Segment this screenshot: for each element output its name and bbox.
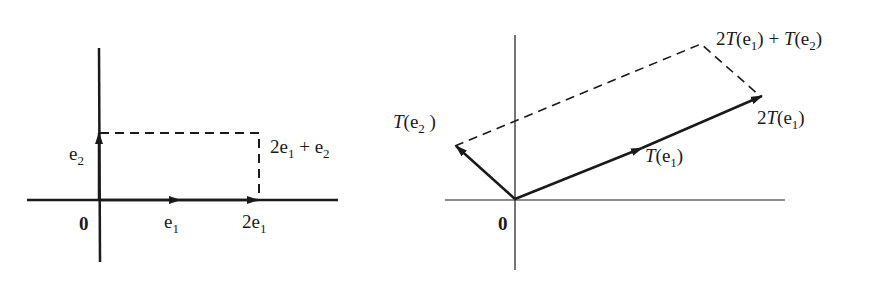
e2-label: e2: [69, 143, 84, 168]
e1-label: e1: [164, 211, 179, 236]
left-origin-label: 0: [79, 213, 89, 234]
right-figure: 0 T(e2 ) T(e1) 2T(e1) 2T(e1) + T(e2): [393, 28, 822, 270]
left-dashed-rectangle: [100, 133, 259, 200]
two-te1-label: 2T(e1): [757, 107, 805, 132]
right-dashed-parallelogram: [455, 44, 760, 146]
two-te1-vector-arrow: [642, 96, 762, 148]
linear-transformation-diagram: 0 e2 e1 2e1 2e1 + e2 0 T(e2 ) T(e1) 2T(e…: [0, 0, 884, 286]
te2-vector-arrow: [456, 146, 515, 199]
right-origin-label: 0: [498, 213, 508, 234]
te2-label: T(e2 ): [393, 111, 436, 136]
sum-label-2te1-plus-te2: 2T(e1) + T(e2): [716, 28, 822, 53]
te1-vector-arrow: [515, 148, 642, 199]
te1-label: T(e1): [645, 145, 683, 170]
sum-label-2e1-plus-e2: 2e1 + e2: [270, 136, 330, 161]
left-figure: 0 e2 e1 2e1 2e1 + e2: [27, 48, 338, 262]
two-e1-label: 2e1: [242, 211, 266, 236]
